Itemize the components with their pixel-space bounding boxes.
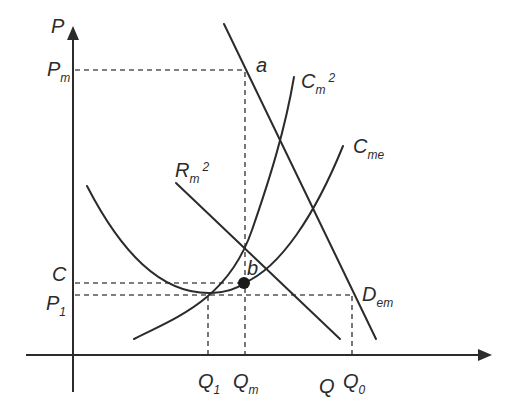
point-a-label: a — [256, 54, 267, 76]
marginal-cost-curve — [134, 77, 294, 339]
average-cost-label: Cme — [353, 135, 384, 162]
y-axis-label: P — [51, 15, 65, 37]
q0-label: Q0 — [343, 370, 366, 397]
marginal-revenue-label: Rm2 — [175, 159, 209, 186]
marginal-cost-label: Cm2 — [301, 70, 335, 97]
p1-label: P1 — [46, 292, 66, 319]
demand-label: Dem — [362, 283, 393, 310]
qm-label: Qm — [233, 370, 259, 397]
demand-curve — [224, 24, 376, 339]
pm-label: Pm — [47, 58, 70, 85]
c-label: C — [52, 263, 67, 285]
x-axis-arrow-icon — [478, 349, 492, 361]
y-axis-arrow-icon — [67, 26, 79, 40]
point-b-label: b — [247, 257, 258, 279]
x-axis-label: Q — [319, 375, 335, 397]
q1-label: Q1 — [198, 370, 220, 397]
monopoly-diagram: P Q Pm C P1 Q1 Qm Q0 a b Cm2 Cme Rm2 Dem — [0, 0, 509, 416]
